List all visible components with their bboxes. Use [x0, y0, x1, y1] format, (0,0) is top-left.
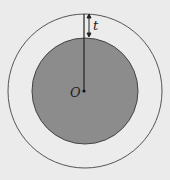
concentric-circles-diagram: t O	[0, 0, 170, 180]
thickness-label: t	[93, 18, 99, 33]
center-point	[82, 89, 85, 92]
center-label: O	[70, 85, 81, 100]
